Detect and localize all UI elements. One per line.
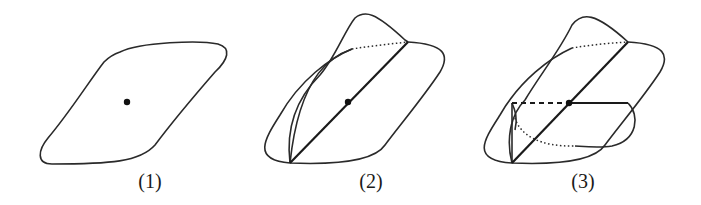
hidden-edge-top	[572, 42, 628, 48]
region-outline-b	[289, 14, 408, 163]
region-outline-b	[509, 17, 628, 163]
center-point	[124, 99, 130, 105]
panel-3: (3)	[484, 17, 664, 193]
panel-label-3: (3)	[571, 170, 594, 193]
panel-label-1: (1)	[138, 170, 161, 193]
region-outline	[40, 42, 227, 164]
panel-label-2: (2)	[359, 170, 382, 193]
figure-canvas: (1) (2) (3)	[0, 0, 701, 205]
hidden-edge-bottom	[515, 118, 575, 146]
center-point	[566, 100, 572, 106]
hidden-edge	[352, 42, 408, 49]
region-outline-c	[575, 103, 635, 147]
region-outline-b-inner	[290, 49, 352, 163]
panel-2: (2)	[265, 14, 445, 193]
center-point	[345, 99, 351, 105]
panel-1: (1)	[40, 42, 227, 193]
